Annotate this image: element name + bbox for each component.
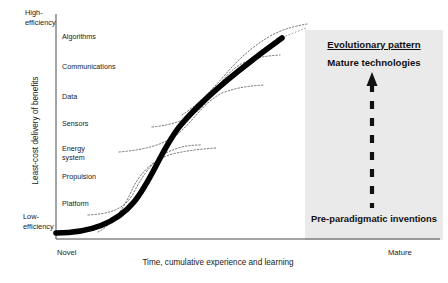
x-axis-mature-label: Mature (388, 248, 412, 257)
sub-curve-energy (119, 85, 264, 152)
x-axis-title: Time, cumulative experience and learning (118, 258, 318, 267)
tech-label: Sensors (62, 120, 88, 129)
tech-label: Data (62, 93, 77, 102)
tech-label: Energy system (62, 145, 85, 162)
y-axis-high-label: High- efficiency (25, 8, 71, 27)
tech-label: Platform (62, 200, 89, 209)
tech-label: Algorithms (62, 33, 96, 42)
sub-curves (88, 24, 307, 232)
x-axis-novel-label: Novel (57, 248, 76, 257)
plot-canvas (0, 0, 448, 283)
y-axis-low-label: Low- efficiency (23, 212, 71, 231)
tech-label: Propulsion (62, 173, 96, 182)
sub-curve-platform (88, 145, 202, 215)
tech-label: Communications (62, 63, 116, 72)
s-curve-diagram: Evolutionary pattern Mature technologies… (0, 0, 448, 283)
y-axis-title: Least-cost delivery of benefits (31, 47, 40, 215)
